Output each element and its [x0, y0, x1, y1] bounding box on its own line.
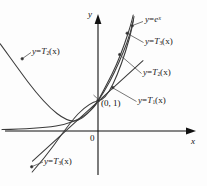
leader-dot-exp — [131, 25, 134, 28]
point-label-0-1: (0, 1) — [101, 99, 121, 108]
curves-group — [0, 15, 143, 172]
x-axis-arrowhead — [186, 128, 196, 135]
leader-dot-t3-right — [126, 32, 129, 35]
figure-canvas — [0, 0, 207, 186]
leader-line-t2-left — [23, 53, 32, 59]
leader-dot-t2-right — [118, 53, 121, 56]
curve-T1-tangent-line — [33, 61, 144, 162]
label-y-equals-T2-of-x-right: y=T2(x) — [143, 68, 171, 77]
label-t3r-argument: (x) — [162, 36, 173, 46]
taylor-polynomial-figure: y x 0 (0, 1) y=ex y=T3(x) y=T2(x) y=T1(x… — [0, 0, 207, 186]
leader-dot-t2-left — [21, 58, 24, 61]
label-t1r-argument: (x) — [155, 95, 166, 105]
leader-line-exp — [133, 22, 144, 26]
point-marker-01 — [97, 99, 100, 102]
label-t2l-argument: (x) — [49, 46, 60, 56]
label-t3b-argument: (x) — [61, 156, 72, 166]
y-axis-label: y — [88, 10, 92, 19]
label-y-equals-T3-of-x-bottom: y=T3(x) — [44, 157, 72, 166]
y-axis-arrowhead — [95, 14, 102, 24]
x-axis-label: x — [191, 137, 195, 146]
leader-dot-t3-bottom — [30, 166, 33, 169]
label-y-equals-T2-of-x-left: y=T2(x) — [32, 47, 60, 56]
leader-line-t2-right — [120, 55, 142, 74]
leader-dot-t1-right — [111, 86, 114, 89]
origin-label: 0 — [90, 134, 95, 143]
label-t2r-argument: (x) — [160, 67, 171, 77]
label-y-equals-e-to-the-x: y=ex — [145, 15, 161, 24]
curve-exponential — [2, 15, 133, 130]
label-y-equals-T1-of-x-right: y=T1(x) — [138, 96, 166, 105]
label-exp-superscript: x — [158, 15, 160, 21]
curve-T3-cubic — [32, 17, 134, 173]
label-y-equals-T3-of-x-right: y=T3(x) — [145, 37, 173, 46]
